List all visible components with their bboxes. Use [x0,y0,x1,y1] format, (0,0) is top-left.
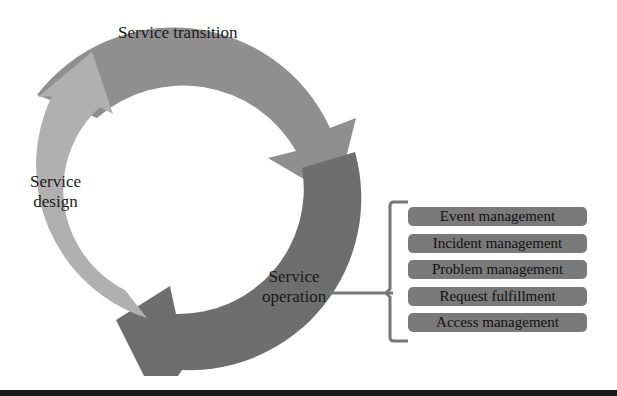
bracket [386,202,408,341]
service-design-label-line2: design [30,192,81,212]
service-operation-label-line2: operation [262,287,326,307]
service-operation-arrow [116,152,361,376]
service-design-label: Service design [30,172,81,212]
process-incident-management: Incident management [408,234,587,253]
bottom-border [0,390,617,396]
itil-service-lifecycle-diagram: Service transition Service design Servic… [0,0,617,396]
service-transition-label: Service transition [118,23,237,43]
process-problem-management: Problem management [408,260,587,279]
service-operation-label: Service operation [262,267,326,307]
process-access-management: Access management [408,313,587,332]
service-design-label-line1: Service [30,172,81,192]
cycle-arrows [0,0,617,396]
process-event-management: Event management [408,207,587,226]
process-request-fulfillment: Request fulfillment [408,287,587,306]
service-operation-label-line1: Service [262,267,326,287]
